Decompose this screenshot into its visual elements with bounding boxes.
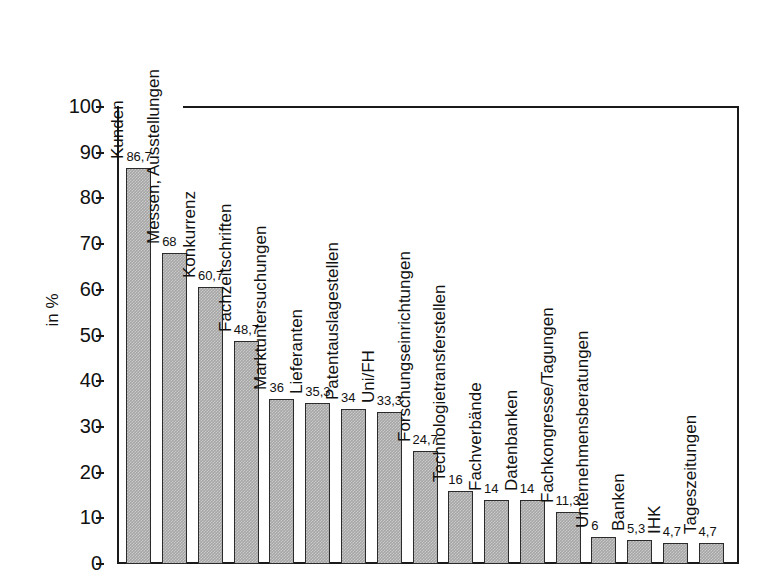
- bar-category-label: Patentauslagestellen: [324, 242, 341, 400]
- bar-category-label: Fachverbände: [467, 382, 484, 491]
- bar: [269, 399, 294, 564]
- y-axis-tick-mark: [96, 243, 104, 245]
- bar-value-label: 14: [484, 482, 498, 495]
- bar-value-label: 6: [591, 519, 598, 532]
- bar: [162, 253, 187, 564]
- bar-category-label: Marktuntersuchungen: [252, 226, 269, 390]
- bar-category-label: Konkurrenz: [181, 191, 198, 278]
- bar-category-label: Kunden: [109, 100, 126, 159]
- bar: [448, 491, 473, 564]
- bar-value-label: 34: [341, 391, 355, 404]
- bar-value-label: 4,7: [699, 525, 717, 538]
- bar-group: 68Messen, Ausstellungen: [162, 0, 187, 588]
- y-axis-tick-mark: [96, 563, 104, 565]
- bar-category-label: Forschungseinrichtungen: [396, 251, 413, 442]
- bar-chart: in % 0102030405060708090100 86,7Kunden68…: [0, 0, 762, 588]
- bar-value-label: 4,7: [663, 525, 681, 538]
- bar: [663, 543, 688, 564]
- bar-category-label: Tageszeitungen: [682, 414, 699, 533]
- bar-category-label: Technologietransferstellen: [431, 284, 448, 482]
- bar-value-label: 36: [269, 381, 283, 394]
- bar-category-label: Uni/FH: [360, 350, 377, 403]
- bar-category-label: Banken: [610, 473, 627, 531]
- bar: [627, 540, 652, 564]
- bar-group: 16Technologietransferstellen: [448, 0, 473, 588]
- bar: [305, 403, 330, 564]
- y-axis-tick-mark: [96, 335, 104, 337]
- bar: [520, 500, 545, 564]
- bar-group: 36Marktuntersuchungen: [269, 0, 294, 588]
- bar: [341, 409, 366, 564]
- y-axis-tick-mark: [96, 152, 104, 154]
- bar: [699, 543, 724, 564]
- bar-category-label: Fachzeitschriften: [217, 204, 234, 333]
- bar-value-label: 5,3: [627, 522, 645, 535]
- bar: [591, 537, 616, 564]
- bar-category-label: Datenbanken: [503, 390, 520, 491]
- y-axis-tick-mark: [96, 517, 104, 519]
- y-axis-tick-mark: [96, 380, 104, 382]
- bar-value-label: 68: [162, 235, 176, 248]
- bar-group: 4,7Tageszeitungen: [699, 0, 724, 588]
- bar-value-label: 16: [448, 473, 462, 486]
- bar-category-label: Messen, Ausstellungen: [145, 69, 162, 244]
- bar-category-label: Lieferanten: [288, 309, 305, 394]
- bar-group: 5,3Banken: [627, 0, 652, 588]
- bar-category-label: IHK: [646, 505, 663, 533]
- bar: [484, 500, 509, 564]
- bar-category-label: Fachkongresse/Tagungen: [539, 308, 556, 504]
- y-axis-tick-mark: [96, 472, 104, 474]
- bar-category-label: Unternehmensberatungen: [574, 330, 591, 528]
- bar-group: 34Patentauslagestellen: [341, 0, 366, 588]
- y-axis-tick-mark: [96, 106, 104, 108]
- y-axis-tick-mark: [96, 197, 104, 199]
- bar-group: 14Fachverbände: [484, 0, 509, 588]
- y-axis-tick-mark: [96, 289, 104, 291]
- bar-value-label: 14: [520, 482, 534, 495]
- bar-series: 86,7Kunden68Messen, Ausstellungen60,7Kon…: [117, 0, 739, 588]
- y-axis-tick-mark: [96, 426, 104, 428]
